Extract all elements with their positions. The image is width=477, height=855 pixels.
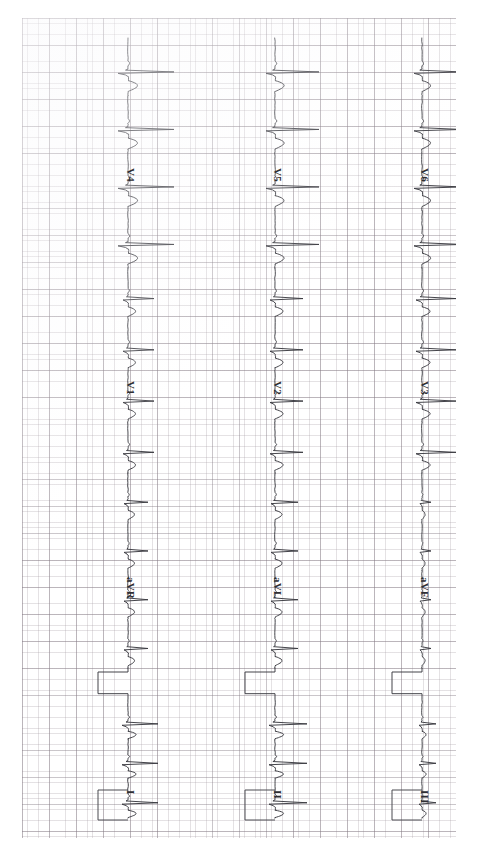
ecg-trace-i bbox=[98, 668, 158, 818]
lead-label-v3: V3 bbox=[419, 381, 430, 395]
lead-label-ii: II bbox=[272, 790, 283, 799]
ecg-trace-v6 bbox=[414, 38, 456, 268]
lead-label-v2: V2 bbox=[272, 381, 283, 395]
ecg-trace-v4 bbox=[118, 38, 174, 268]
ecg-trace-v3 bbox=[416, 268, 456, 473]
ecg-trace-avf bbox=[420, 473, 431, 668]
ecg-traces bbox=[22, 18, 456, 838]
ecg-trace-avl bbox=[271, 473, 298, 668]
ecg-root: V4V1aVRIV5V2aVLIIV6V3aVFIII bbox=[0, 0, 477, 855]
lead-label-avl: aVL bbox=[272, 577, 283, 599]
lead-label-iii: III bbox=[419, 790, 430, 804]
ecg-trace-v1 bbox=[123, 268, 154, 473]
lead-label-v1: V1 bbox=[125, 381, 136, 395]
ecg-trace-canvas bbox=[22, 18, 456, 838]
lead-label-v5: V5 bbox=[272, 168, 283, 182]
ecg-trace-avr bbox=[124, 473, 148, 668]
ecg-trace-v2 bbox=[270, 268, 303, 473]
ecg-paper bbox=[22, 18, 456, 838]
calibration-pulse bbox=[392, 790, 422, 820]
lead-label-v6: V6 bbox=[419, 168, 430, 182]
lead-label-avf: aVF bbox=[419, 577, 430, 598]
lead-label-avr: aVR bbox=[125, 577, 136, 599]
lead-label-i: I bbox=[125, 790, 136, 795]
ecg-trace-v5 bbox=[266, 38, 319, 268]
lead-label-v4: V4 bbox=[125, 168, 136, 182]
